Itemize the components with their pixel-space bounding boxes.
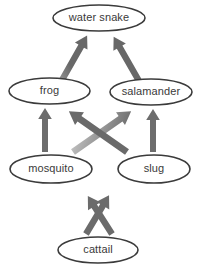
arrow-salamander-to-water-snake xyxy=(107,33,145,84)
arrow-layer xyxy=(38,32,160,238)
node-cattail-label: cattail xyxy=(83,243,112,255)
node-water-snake[interactable]: water snake xyxy=(53,5,145,31)
node-salamander-label: salamander xyxy=(122,85,181,97)
food-web-diagram: water snake frog salamander mosquito slu… xyxy=(0,0,197,271)
arrow-slug-to-salamander xyxy=(146,109,160,152)
arrow-mosquito-to-frog xyxy=(38,108,52,152)
node-water-snake-label: water snake xyxy=(68,11,129,23)
node-mosquito-label: mosquito xyxy=(28,162,73,174)
food-web-canvas: water snake frog salamander mosquito slu… xyxy=(0,0,197,271)
node-slug[interactable]: slug xyxy=(118,155,190,183)
node-mosquito[interactable]: mosquito xyxy=(10,155,92,183)
node-salamander[interactable]: salamander xyxy=(110,79,192,105)
node-cattail[interactable]: cattail xyxy=(58,237,138,263)
node-frog-label: frog xyxy=(40,84,59,96)
node-slug-label: slug xyxy=(144,162,165,174)
arrow-frog-to-water-snake xyxy=(56,32,94,83)
node-frog[interactable]: frog xyxy=(9,78,90,104)
